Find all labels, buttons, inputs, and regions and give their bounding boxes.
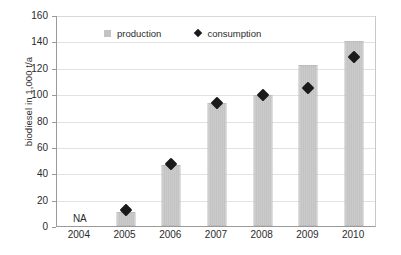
y-tick-label: 0 bbox=[14, 222, 48, 232]
chart-column bbox=[240, 16, 286, 226]
na-annotation: NA bbox=[73, 213, 87, 224]
chart-column: NA bbox=[57, 16, 103, 226]
x-tick-label: 2005 bbox=[102, 229, 148, 241]
production-bar bbox=[207, 103, 226, 226]
x-tick-label: 2008 bbox=[239, 229, 285, 241]
production-bar bbox=[253, 95, 272, 226]
square-marker-icon bbox=[104, 30, 111, 37]
chart-legend: production consumption bbox=[104, 27, 261, 39]
legend-label-production: production bbox=[117, 28, 161, 39]
y-tick-label: 20 bbox=[14, 196, 48, 206]
chart-column bbox=[194, 16, 240, 226]
legend-entry-consumption: consumption bbox=[195, 28, 261, 39]
production-bar bbox=[345, 41, 364, 226]
x-axis-ticks: 2004200520062007200820092010 bbox=[56, 229, 376, 253]
series-layer: NA bbox=[57, 16, 375, 226]
x-tick-label: 2007 bbox=[193, 229, 239, 241]
y-tick-mark bbox=[52, 227, 56, 228]
chart-column bbox=[331, 16, 377, 226]
production-bar bbox=[162, 165, 181, 226]
x-tick-label: 2006 bbox=[147, 229, 193, 241]
chart-column bbox=[103, 16, 149, 226]
chart-column bbox=[148, 16, 194, 226]
diamond-marker-icon bbox=[194, 29, 202, 37]
x-tick-label: 2010 bbox=[330, 229, 376, 241]
x-tick-label: 2004 bbox=[56, 229, 102, 241]
x-tick-label: 2009 bbox=[285, 229, 331, 241]
y-axis-title: biodiesel in 1,000 t/a bbox=[23, 12, 34, 192]
chart-column bbox=[286, 16, 332, 226]
plot-area: NA bbox=[56, 16, 376, 227]
legend-entry-production: production bbox=[104, 28, 161, 39]
biodiesel-bar-chart: biodiesel in 1,000 t/a 02040608010012014… bbox=[0, 0, 401, 255]
legend-label-consumption: consumption bbox=[207, 28, 261, 39]
